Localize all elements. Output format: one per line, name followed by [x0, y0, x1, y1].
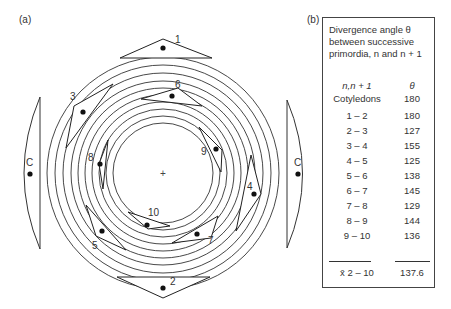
mean-label: x̄ 2 – 10: [323, 266, 391, 280]
col-angle-header: θ: [391, 80, 433, 91]
primordium-2: 2: [117, 276, 210, 298]
table-row: 3 – 4155: [323, 139, 436, 153]
primordium-8: 8: [88, 140, 108, 189]
table-row: 7 – 8129: [323, 199, 436, 213]
caption-line-2: between successive: [329, 36, 433, 48]
primordium-4: 4: [236, 155, 261, 231]
caption-line-1: Divergence angle θ: [329, 24, 433, 36]
svg-text:1: 1: [175, 34, 181, 45]
primordium-9: 9: [199, 127, 222, 172]
table-header: n,n + 1 θ: [323, 80, 436, 92]
svg-text:6: 6: [175, 79, 181, 90]
table-row: 4 – 5125: [323, 154, 436, 168]
primordium-6: 6: [141, 79, 202, 106]
primordium-5: 5: [86, 205, 126, 251]
cotyledon-right: C: [287, 100, 303, 248]
divergence-angle-table: Divergence angle θ between successive pr…: [322, 17, 435, 288]
table-row: Cotyledons180: [323, 92, 436, 106]
table-row: 1 – 2180: [323, 109, 436, 123]
svg-text:4: 4: [247, 181, 253, 192]
svg-text:2: 2: [170, 276, 176, 287]
table-row: 6 – 7145: [323, 184, 436, 198]
table-caption: Divergence angle θ between successive pr…: [329, 24, 433, 60]
cotyledon-right-label: C: [294, 157, 301, 168]
table-row: 8 – 9144: [323, 214, 436, 228]
table-row: 9 – 10136: [323, 229, 436, 243]
svg-text:3: 3: [70, 91, 76, 102]
center-mark: +: [160, 168, 166, 179]
primordium-10: 10: [128, 207, 170, 229]
svg-text:8: 8: [88, 152, 94, 163]
mean-value: 137.6: [391, 266, 433, 280]
svg-text:9: 9: [201, 146, 207, 157]
table-row: 2 – 3127: [323, 124, 436, 138]
svg-text:10: 10: [148, 207, 160, 218]
svg-text:5: 5: [92, 240, 98, 251]
primordium-1: 1: [120, 34, 212, 58]
cotyledon-left-label: C: [26, 157, 33, 168]
phyllotaxis-diagram: + C C 1 2 3 4: [0, 0, 320, 309]
svg-text:7: 7: [208, 235, 214, 246]
divider-left: [329, 261, 371, 262]
table-row: 5 – 6138: [323, 169, 436, 183]
divider-right: [395, 261, 430, 262]
cotyledon-left: C: [24, 97, 40, 249]
caption-line-3: primordia, n and n + 1: [329, 48, 433, 60]
col-pair-header: n,n + 1: [323, 80, 391, 91]
mean-row: x̄ 2 – 10 137.6: [323, 266, 436, 280]
